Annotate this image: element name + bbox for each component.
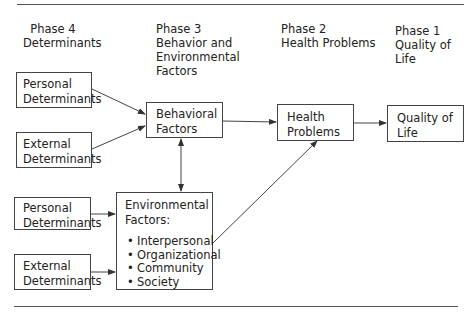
external-determinants-bottom-box: External Determinants [14,254,91,290]
phase-3-title: Phase 3 [156,22,240,36]
health-problems-box: Health Problems [277,104,354,141]
list-item: Community [125,262,204,276]
list-item: Society [125,276,204,290]
box-title: Environmental [125,198,204,213]
box-label: Personal [23,77,85,92]
phase-1-title: Phase 1 [395,24,472,38]
phase-2-header: Phase 2 Health Problems [281,22,375,50]
environmental-factors-box: Environmental Factors: Interpersonal Org… [116,192,213,290]
box-label: Determinants [23,274,82,289]
phase-4-header: Phase 4 Determinants [23,22,83,50]
bottom-rule [14,306,458,307]
phase-3-header: Phase 3 Behavior and Environmental Facto… [156,22,240,78]
quality-of-life-box: Quality of Life [387,105,464,142]
arrow-behavioral-to-health [223,121,276,122]
box-label: Determinants [23,92,85,107]
box-label: Factors [156,122,213,137]
box-label: Problems [287,125,344,140]
box-label: External [23,259,82,274]
personal-determinants-bottom-box: Personal Determinants [14,197,91,230]
top-rule [17,4,464,5]
box-label: Personal [23,201,82,216]
box-label: Determinants [23,216,82,231]
phase-1-header: Phase 1 Quality of Life [395,24,472,66]
box-label: Quality of [397,111,454,126]
box-label: Determinants [23,152,85,167]
box-label: Behavioral [156,107,213,122]
box-label: External [23,137,85,152]
box-label: Health [287,110,344,125]
list-item: Interpersonal [125,235,204,249]
phase-4-title: Phase 4 [23,22,83,36]
phase-2-title: Phase 2 [281,22,375,36]
box-label: Life [397,126,454,141]
phase-3-subtitle-2: Environmental [156,50,240,64]
environmental-factors-list: Interpersonal Organizational Community S… [125,235,204,289]
phase-3-subtitle-1: Behavior and [156,36,240,50]
behavioral-factors-box: Behavioral Factors [146,102,223,138]
box-title: Factors: [125,213,204,228]
external-determinants-top-box: External Determinants [16,132,92,168]
phase-2-subtitle: Health Problems [281,36,375,50]
arrow-environmental-to-health [213,141,317,243]
phase-1-subtitle: Quality of Life [395,38,472,66]
personal-determinants-top-box: Personal Determinants [16,72,92,108]
list-item: Organizational [125,249,204,263]
phase-3-subtitle-3: Factors [156,64,240,78]
phase-4-subtitle: Determinants [23,36,83,50]
arrow-external-to-behavioral [92,126,145,149]
